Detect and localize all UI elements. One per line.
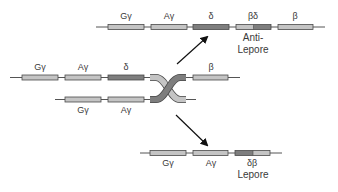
label-beta: β [292,11,297,21]
gene-delta-beta-hybrid [235,151,270,156]
gene-a-gamma [151,25,187,30]
gene-a-gamma [65,75,101,80]
gene-g-gamma [150,151,186,156]
arrow-up-icon [177,37,207,64]
gene-delta [193,25,229,30]
caption-lepore: Lepore [237,44,269,55]
gene-g-gamma [65,97,101,102]
arrow-down-icon [176,115,207,145]
lepore-chromosome: Gγ Aγ δβ Lepore [140,151,282,181]
label-beta-delta: βδ [248,11,258,21]
label-delta: δ [123,62,128,72]
label-g-gamma: Gγ [34,62,46,72]
label-a-gamma: Aγ [206,158,217,168]
crossover-region [150,78,186,100]
gene-a-gamma [193,151,228,156]
label-a-gamma: Aγ [164,11,175,21]
label-beta: β [208,62,213,72]
gene-g-gamma [22,75,58,80]
gene-beta [193,75,228,80]
gene-a-gamma [108,97,144,102]
globin-crossover-diagram: Gγ Aγ δ βδ β Anti- Lepore Gγ Aγ δ β Gγ A… [0,0,338,192]
label-a-gamma: Aγ [78,62,89,72]
label-g-gamma: Gγ [162,158,174,168]
label-delta: δ [208,11,213,21]
label-delta-beta: δβ [247,158,257,168]
gene-g-gamma [108,25,144,30]
label-a-gamma: Aγ [121,105,132,115]
anti-lepore-chromosome: Gγ Aγ δ βδ β Anti- Lepore [96,11,325,55]
gene-beta [278,25,313,30]
caption-lepore: Lepore [237,169,269,180]
label-g-gamma: Gγ [77,105,89,115]
gene-beta-delta-hybrid [236,25,271,30]
label-g-gamma: Gγ [120,11,132,21]
gene-delta [108,75,144,80]
caption-anti: Anti- [243,32,264,43]
upper-parent-chromosome: Gγ Aγ δ β [10,62,240,80]
